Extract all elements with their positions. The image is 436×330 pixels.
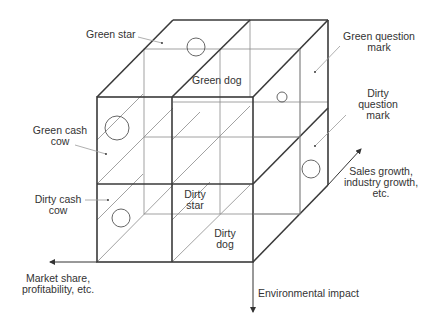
- label-text: dog: [210, 239, 240, 250]
- label-dirty-cash-cow: Dirty cash cow: [33, 194, 83, 216]
- label-text: cow: [30, 136, 90, 147]
- label-green-star: Green star: [86, 29, 136, 40]
- label-text: Environmental impact: [258, 287, 359, 299]
- label-text: mark: [348, 110, 408, 121]
- bubbles: [105, 38, 320, 227]
- label-text: cow: [33, 205, 83, 216]
- label-text: Green star: [86, 28, 136, 40]
- dirty-cash-cow-bubble: [112, 209, 130, 227]
- label-text: profitability, etc.: [18, 284, 98, 295]
- cube-edges: [97, 20, 328, 262]
- label-text: star: [180, 200, 210, 211]
- cube-diagram: Green star Green dog Green question mark…: [0, 0, 436, 330]
- label-x-axis: Market share, profitability, etc.: [18, 273, 98, 295]
- dirty-question-mark-bubble: [302, 160, 320, 178]
- label-dirty-star: Dirty star: [180, 189, 210, 211]
- label-green-question-mark: Green question mark: [336, 31, 422, 53]
- label-text: mark: [336, 42, 422, 53]
- label-vertical-axis: Environmental impact: [258, 288, 359, 299]
- label-dirty-dog: Dirty dog: [210, 228, 240, 250]
- green-question-mark-bubble: [277, 92, 287, 102]
- label-text: etc.: [341, 188, 421, 199]
- label-dirty-question-mark: Dirty question mark: [348, 88, 408, 121]
- label-depth-axis: Sales growth, industry growth, etc.: [341, 166, 421, 199]
- green-star-bubble: [187, 38, 205, 56]
- label-text: Green dog: [192, 74, 242, 86]
- label-green-dog: Green dog: [192, 75, 242, 86]
- label-green-cash-cow: Green cash cow: [30, 125, 90, 147]
